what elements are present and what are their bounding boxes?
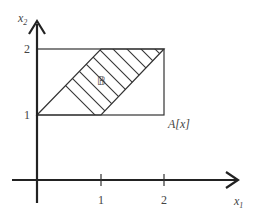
hatch-line <box>132 40 212 120</box>
hatch-line <box>146 40 226 120</box>
y-tick-label-1: 1 <box>24 108 30 122</box>
x-axis-label: x1 <box>233 194 243 210</box>
y-tick-label-2: 2 <box>24 42 30 56</box>
region-b-label: 𝔹 <box>97 74 106 88</box>
x-tick-label-1: 1 <box>98 193 104 207</box>
diagram-canvas: 1 2 1 2 x1 x2 𝔹 A[x] <box>0 0 253 216</box>
hatch-line <box>174 40 253 120</box>
x-tick-label-2: 2 <box>161 193 167 207</box>
rectangle-a-label: A[x] <box>167 117 190 131</box>
hatch-line <box>160 40 240 120</box>
y-axis-label: x2 <box>17 11 27 27</box>
region-b-hatching <box>20 40 253 120</box>
